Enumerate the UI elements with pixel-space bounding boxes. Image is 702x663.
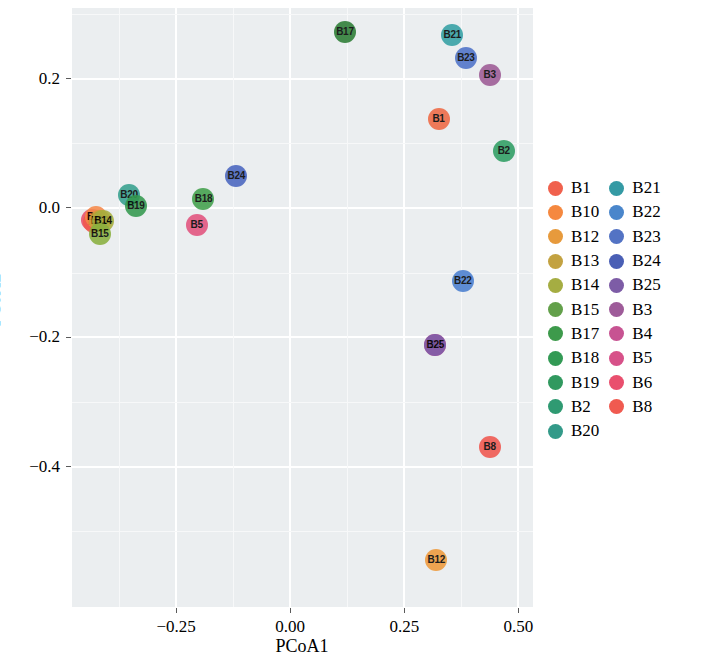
legend-swatch-icon bbox=[609, 375, 624, 390]
gridline-horizontal-minor bbox=[72, 402, 533, 403]
scatter-point[interactable]: B12 bbox=[425, 549, 447, 571]
scatter-point[interactable]: B21 bbox=[441, 24, 463, 46]
x-tick-label: 0.00 bbox=[275, 617, 305, 637]
legend-item-b3[interactable]: B3 bbox=[609, 297, 660, 321]
legend-swatch-icon bbox=[548, 375, 563, 390]
legend-label: B10 bbox=[571, 202, 599, 222]
scatter-point[interactable]: B25 bbox=[424, 334, 446, 356]
x-tick-mark bbox=[404, 608, 405, 613]
scatter-point[interactable]: B22 bbox=[452, 270, 474, 292]
legend-column: B21B22B23B24B25B3B4B5B6B8 bbox=[609, 176, 660, 443]
scatter-point[interactable]: B24 bbox=[225, 165, 247, 187]
y-tick-mark bbox=[66, 466, 71, 467]
scatter-point-label: B22 bbox=[454, 276, 471, 286]
legend-item-b21[interactable]: B21 bbox=[609, 176, 660, 200]
legend-item-b23[interactable]: B23 bbox=[609, 225, 660, 249]
gridline-horizontal-minor bbox=[72, 143, 533, 144]
scatter-point-label: B24 bbox=[228, 171, 245, 181]
legend-item-b19[interactable]: B19 bbox=[548, 370, 599, 394]
pcoa-scatter-figure: B17B21B23B3B1B2B24B20B18B19B5B6B8B10B13B… bbox=[0, 0, 702, 663]
legend-item-b6[interactable]: B6 bbox=[609, 370, 660, 394]
legend-swatch-icon bbox=[548, 424, 563, 439]
legend-item-b22[interactable]: B22 bbox=[609, 200, 660, 224]
x-axis-label: PCoA1 bbox=[275, 636, 328, 657]
scatter-point-label: B2 bbox=[498, 146, 510, 156]
legend-label: B25 bbox=[632, 275, 660, 295]
legend-swatch-icon bbox=[609, 254, 624, 269]
gridline-horizontal-minor bbox=[72, 531, 533, 532]
legend-swatch-icon bbox=[548, 254, 563, 269]
legend-item-b13[interactable]: B13 bbox=[548, 249, 599, 273]
legend-item-b5[interactable]: B5 bbox=[609, 346, 660, 370]
legend-swatch-icon bbox=[548, 351, 563, 366]
scatter-point[interactable]: B18 bbox=[192, 188, 214, 210]
y-tick-label: 0.2 bbox=[39, 69, 60, 89]
legend-item-b25[interactable]: B25 bbox=[609, 273, 660, 297]
legend-item-b4[interactable]: B4 bbox=[609, 322, 660, 346]
legend-label: B2 bbox=[571, 397, 591, 417]
legend-label: B14 bbox=[571, 275, 599, 295]
gridline-vertical bbox=[289, 8, 291, 607]
scatter-point[interactable]: B19 bbox=[125, 195, 147, 217]
legend-swatch-icon bbox=[548, 399, 563, 414]
scatter-point-label: B1 bbox=[432, 114, 444, 124]
scatter-point[interactable]: B1 bbox=[428, 108, 450, 130]
legend-item-b1[interactable]: B1 bbox=[548, 176, 599, 200]
y-tick-label: 0.0 bbox=[39, 198, 60, 218]
legend-item-b8[interactable]: B8 bbox=[609, 395, 660, 419]
scatter-point[interactable]: B15 bbox=[89, 223, 111, 245]
legend-item-b17[interactable]: B17 bbox=[548, 322, 599, 346]
legend-label: B1 bbox=[571, 178, 591, 198]
x-tick-mark bbox=[290, 608, 291, 613]
legend-swatch-icon bbox=[548, 302, 563, 317]
legend-swatch-icon bbox=[548, 326, 563, 341]
legend-item-b14[interactable]: B14 bbox=[548, 273, 599, 297]
scatter-point-label: B15 bbox=[91, 229, 108, 239]
legend-item-b2[interactable]: B2 bbox=[548, 395, 599, 419]
gridline-horizontal-minor bbox=[72, 14, 533, 15]
legend-item-b12[interactable]: B12 bbox=[548, 225, 599, 249]
legend-swatch-icon bbox=[548, 278, 563, 293]
y-tick-mark bbox=[66, 78, 71, 79]
legend-swatch-icon bbox=[609, 302, 624, 317]
legend-label: B17 bbox=[571, 324, 599, 344]
legend-label: B3 bbox=[632, 300, 652, 320]
scatter-point[interactable]: B5 bbox=[186, 214, 208, 236]
legend-label: B8 bbox=[632, 397, 652, 417]
scatter-point-label: B23 bbox=[457, 53, 474, 63]
legend-label: B18 bbox=[571, 348, 599, 368]
gridline-horizontal bbox=[72, 78, 533, 80]
legend-swatch-icon bbox=[609, 205, 624, 220]
gridline-vertical bbox=[403, 8, 405, 607]
y-tick-mark bbox=[66, 207, 71, 208]
legend-column: B1B10B12B13B14B15B17B18B19B2B20 bbox=[548, 176, 599, 443]
legend-label: B12 bbox=[571, 227, 599, 247]
scatter-point-label: B3 bbox=[484, 70, 496, 80]
y-tick-mark bbox=[66, 337, 71, 338]
scatter-point[interactable]: B8 bbox=[479, 436, 501, 458]
scatter-point-label: B19 bbox=[127, 201, 144, 211]
legend-item-b18[interactable]: B18 bbox=[548, 346, 599, 370]
gridline-vertical bbox=[175, 8, 177, 607]
scatter-point[interactable]: B3 bbox=[479, 64, 501, 86]
legend-swatch-icon bbox=[548, 181, 563, 196]
legend-item-b10[interactable]: B10 bbox=[548, 200, 599, 224]
x-tick-label: 0.25 bbox=[389, 617, 419, 637]
scatter-point-label: B18 bbox=[195, 194, 212, 204]
legend-item-b20[interactable]: B20 bbox=[548, 419, 599, 443]
gridline-vertical-minor bbox=[233, 8, 234, 607]
legend-item-b24[interactable]: B24 bbox=[609, 249, 660, 273]
y-tick-label: −0.2 bbox=[29, 327, 60, 347]
x-tick-label: −0.25 bbox=[156, 617, 195, 637]
legend-item-b15[interactable]: B15 bbox=[548, 297, 599, 321]
scatter-point[interactable]: B23 bbox=[455, 47, 477, 69]
legend-swatch-icon bbox=[548, 205, 563, 220]
legend-swatch-icon bbox=[548, 229, 563, 244]
legend-swatch-icon bbox=[609, 351, 624, 366]
legend-swatch-icon bbox=[609, 181, 624, 196]
scatter-point[interactable]: B2 bbox=[493, 140, 515, 162]
scatter-point[interactable]: B17 bbox=[334, 21, 356, 43]
legend-label: B15 bbox=[571, 300, 599, 320]
gridline-vertical-minor bbox=[461, 8, 462, 607]
legend-swatch-icon bbox=[609, 326, 624, 341]
